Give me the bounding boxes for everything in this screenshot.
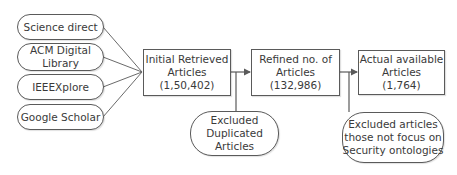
stage-title-line: Refined no. of [259,53,332,66]
exclusion-line: Security ontologies [343,144,444,157]
stage-refined: Refined no. of Articles (132,986) [251,49,340,96]
exclusion-line: Excluded [211,114,259,127]
stage-title-line: Articles [276,66,315,79]
source-acm-digital-library: ACM Digital Library [17,43,104,71]
exclusion-line: Articles [215,140,254,153]
source-science-direct: Science direct [17,14,104,40]
source-label: Library [42,57,79,70]
stage-title-line: Articles [382,66,421,79]
source-ieeexplore: IEEEXplore [17,74,104,100]
exclusion-line: Duplicated [206,127,263,140]
source-label: IEEEXplore [32,81,89,94]
stage-actual-available: Actual available Articles (1,764) [358,50,445,95]
exclusion-not-security-ontologies: Excluded articles those not focus on Sec… [342,112,444,163]
stage-count: (1,764) [382,79,420,92]
source-label: Google Scholar [21,111,101,124]
source-label: Science direct [23,21,97,34]
stage-title-line: Articles [167,66,206,79]
stage-title-line: Actual available [360,53,444,66]
stage-count: (132,986) [270,79,322,92]
exclusion-line: Excluded articles [348,118,438,131]
source-label: ACM Digital [30,44,91,57]
exclusion-line: those not focus on [344,131,441,144]
stage-title-line: Initial Retrieved [146,53,229,66]
stage-count: (1,50,402) [160,79,215,92]
source-google-scholar: Google Scholar [17,104,104,130]
exclusion-duplicates: Excluded Duplicated Articles [190,111,279,156]
stage-initial-retrieved: Initial Retrieved Articles (1,50,402) [143,49,231,96]
